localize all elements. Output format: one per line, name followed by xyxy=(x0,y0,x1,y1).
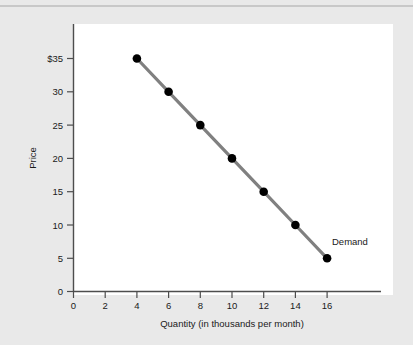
y-tick-label-15: 15 xyxy=(52,186,63,197)
demand-chart: $35 30 25 20 15 10 5 0 0 2 4 6 8 xyxy=(0,0,413,345)
y-tick-label-30: 30 xyxy=(52,86,63,97)
x-tick-label-6: 6 xyxy=(166,300,171,311)
x-axis-title: Quantity (in thousands per month) xyxy=(160,318,304,329)
y-tick-label-35: $35 xyxy=(47,53,63,64)
data-point-12-15 xyxy=(259,187,268,196)
x-tick-label-16: 16 xyxy=(322,300,333,311)
x-tick-label-10: 10 xyxy=(227,300,238,311)
y-tick-label-25: 25 xyxy=(52,120,63,131)
y-tick-label-0: 0 xyxy=(58,286,63,297)
data-point-6-30 xyxy=(164,88,173,97)
y-axis-title: Price xyxy=(27,147,38,169)
x-tick-label-8: 8 xyxy=(198,300,203,311)
data-point-4-35 xyxy=(133,54,142,63)
y-tick-label-5: 5 xyxy=(58,253,63,264)
data-point-16-5 xyxy=(323,254,332,263)
data-point-8-25 xyxy=(196,121,205,130)
demand-curve-label: Demand xyxy=(332,236,368,247)
x-axis-tick-labels: 0 2 4 6 8 10 12 14 16 xyxy=(71,300,333,311)
data-point-14-10 xyxy=(291,221,300,230)
y-tick-label-10: 10 xyxy=(52,220,63,231)
y-axis-ticks xyxy=(67,59,73,292)
y-axis-tick-labels: $35 30 25 20 15 10 5 0 xyxy=(47,53,63,297)
y-tick-label-20: 20 xyxy=(52,153,63,164)
x-tick-label-14: 14 xyxy=(290,300,301,311)
x-tick-label-0: 0 xyxy=(71,300,76,311)
data-point-10-20 xyxy=(228,154,237,163)
x-tick-label-4: 4 xyxy=(134,300,139,311)
x-tick-label-12: 12 xyxy=(258,300,269,311)
demand-curve-figure: $35 30 25 20 15 10 5 0 0 2 4 6 8 xyxy=(0,0,413,345)
x-tick-label-2: 2 xyxy=(103,300,108,311)
